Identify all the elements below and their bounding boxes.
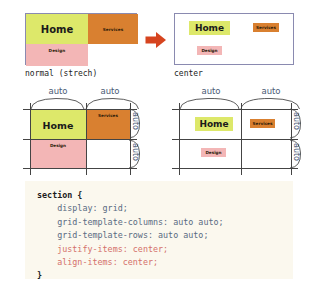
grid-line-v-end-left — [130, 103, 131, 175]
left-track-cell-home: Home — [30, 110, 86, 140]
code-line-1: display: grid; — [37, 203, 128, 213]
track-label-col2-left: auto — [86, 86, 134, 96]
left-track-cell-home-label: Home — [43, 120, 74, 131]
track-label-col2-right: auto — [243, 86, 299, 96]
grid-line-v-end-right — [291, 103, 292, 175]
right-track-cell-home: Home — [195, 117, 233, 131]
left-track-cell-design-label: Design — [50, 143, 66, 148]
right-track-cell-services: Services — [250, 119, 275, 128]
right-track-cell-design-label: Design — [205, 150, 221, 155]
before-caption: normal (strech) — [25, 69, 97, 78]
before-cell-design: Design — [26, 44, 88, 66]
after-cell-services-label: Services — [256, 25, 276, 30]
before-preview-box: Home Services Design — [25, 13, 137, 65]
code-line-0: section { — [37, 190, 82, 200]
before-cell-services: Services — [88, 14, 138, 44]
grid-line-v-mid-right — [241, 103, 242, 175]
grid-line-h-mid-left — [23, 139, 137, 140]
code-line-4: justify-items: center; — [37, 244, 168, 254]
after-cell-home-label: Home — [195, 23, 224, 33]
track-label-col1-left: auto — [34, 86, 82, 96]
code-block-content: section { display: grid; grid-template-c… — [37, 189, 293, 283]
track-diagram-right: auto auto auto auto Home Services Design — [167, 86, 309, 172]
after-cell-design: Design — [197, 46, 222, 55]
after-caption: center — [174, 69, 203, 78]
grid-line-h-mid-right — [172, 139, 298, 140]
grid-line-v-start-left — [30, 103, 31, 175]
after-cell-design-label: Design — [201, 48, 217, 53]
left-track-cell-services: Services — [86, 110, 130, 140]
before-cell-empty — [88, 44, 138, 66]
left-track-cell-services-label: Services — [98, 113, 118, 118]
right-track-cell-design: Design — [201, 148, 226, 157]
after-cell-services: Services — [253, 23, 279, 32]
code-block: section { display: grid; grid-template-c… — [25, 181, 293, 279]
after-cell-home: Home — [189, 21, 230, 35]
right-track-cell-home-label: Home — [199, 119, 228, 129]
code-line-3: grid-template-rows: auto auto; — [37, 230, 208, 240]
before-cell-design-label: Design — [49, 48, 66, 53]
code-line-6: } — [37, 270, 42, 280]
grid-line-h-bottom-left — [23, 168, 137, 169]
left-track-cell-design: Design — [30, 140, 86, 168]
before-cell-home: Home — [26, 14, 88, 44]
grid-line-v-mid-left — [86, 103, 87, 175]
right-track-cell-services-label: Services — [253, 121, 273, 126]
before-cell-home-label: Home — [41, 24, 73, 35]
grid-line-h-top-left — [23, 109, 137, 110]
grid-line-h-bottom-right — [172, 168, 298, 169]
code-line-5: align-items: center; — [37, 257, 158, 267]
right-arrow-icon — [145, 31, 167, 49]
grid-line-v-start-right — [179, 103, 180, 175]
code-line-2: grid-template-columns: auto auto; — [37, 217, 224, 227]
track-label-col1-right: auto — [183, 86, 239, 96]
after-preview-box: Home Services Design — [174, 13, 294, 65]
grid-line-h-top-right — [172, 109, 298, 110]
track-diagram-left: auto auto auto auto Home Services Design — [18, 86, 148, 172]
before-cell-services-label: Services — [103, 27, 124, 32]
